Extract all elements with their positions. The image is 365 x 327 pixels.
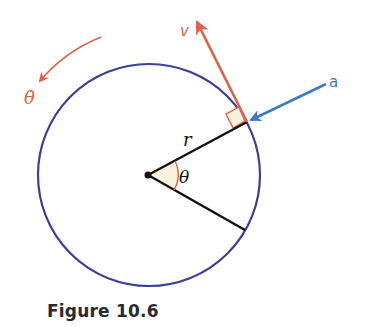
radius-line-lower [148,175,245,230]
figure-caption: Figure 10.6 [47,301,159,321]
radius-label: r [183,129,193,150]
angle-label: θ [179,167,189,187]
theta-dot-label: θ̇ [24,87,35,108]
angle-wedge [148,161,178,190]
acceleration-label: a [329,73,338,91]
velocity-label: v [180,22,190,40]
velocity-vector-arrow [197,22,247,122]
center-point [145,172,152,179]
radius-line-upper [148,122,247,175]
circular-motion-diagram: θ̇ v a r θ [0,0,365,327]
acceleration-vector-arrow [251,84,326,120]
angular-velocity-arrow [40,37,101,81]
